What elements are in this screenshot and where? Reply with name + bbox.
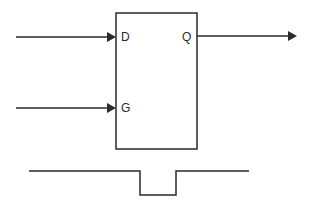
- q-port-label: Q: [182, 30, 191, 44]
- q-arrowhead-icon: [288, 31, 297, 41]
- latch-diagram: D G Q: [0, 0, 311, 207]
- d-input-arrow: [16, 32, 116, 42]
- g-arrowhead-icon: [107, 103, 116, 113]
- gate-pulse-waveform: [29, 171, 249, 195]
- g-port-label: G: [121, 101, 130, 115]
- d-port-label: D: [121, 30, 130, 44]
- g-input-arrow: [16, 103, 116, 113]
- q-output-arrow: [197, 31, 297, 41]
- d-arrowhead-icon: [107, 32, 116, 42]
